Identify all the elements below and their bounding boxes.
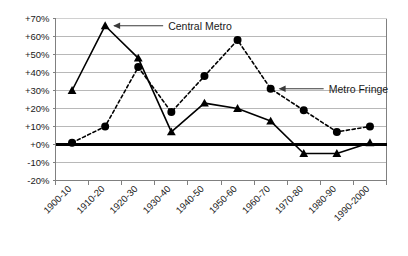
y-tick-label: +70% (25, 13, 50, 24)
data-point-marker (167, 108, 175, 116)
y-tick-label: +10% (25, 121, 50, 132)
data-point-marker (300, 106, 308, 114)
y-tick-label: +60% (25, 31, 50, 42)
y-tick-label: -10% (27, 157, 50, 168)
y-tick-label: +30% (25, 85, 50, 96)
data-point-marker (101, 123, 109, 131)
data-point-marker (200, 72, 208, 80)
data-point-marker (333, 128, 341, 136)
data-point-marker (68, 139, 76, 147)
chart-container: +70%+60%+50%+40%+30%+20%+10%+0%-10%-20% … (0, 0, 408, 256)
growth-rate-line-chart: +70%+60%+50%+40%+30%+20%+10%+0%-10%-20% … (0, 0, 408, 256)
chart-background (0, 0, 408, 256)
data-point-marker (134, 63, 142, 71)
metro-fringe-callout-label: Metro Fringe (329, 83, 389, 95)
y-tick-label: +50% (25, 49, 50, 60)
central-metro-callout-label: Central Metro (168, 20, 232, 32)
data-point-marker (267, 85, 275, 93)
y-tick-label: -20% (27, 175, 50, 186)
data-point-marker (234, 36, 242, 44)
y-tick-label: +40% (25, 67, 50, 78)
y-tick-label: +20% (25, 103, 50, 114)
y-tick-label: +0% (30, 139, 50, 150)
data-point-marker (366, 123, 374, 131)
